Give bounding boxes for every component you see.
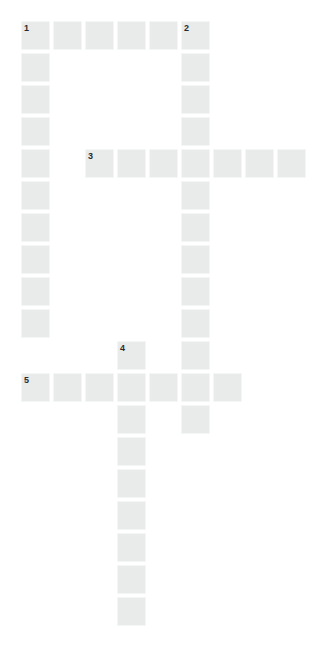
crossword-cell[interactable]	[21, 373, 50, 402]
crossword-cell[interactable]	[117, 149, 146, 178]
crossword-cell[interactable]	[181, 21, 210, 50]
crossword-cell[interactable]	[245, 149, 274, 178]
crossword-cell[interactable]	[117, 565, 146, 594]
crossword-cell[interactable]	[181, 117, 210, 146]
crossword-cell[interactable]	[21, 181, 50, 210]
crossword-cell[interactable]	[21, 213, 50, 242]
crossword-cell[interactable]	[117, 501, 146, 530]
crossword-cell[interactable]	[181, 341, 210, 370]
crossword-cell[interactable]	[117, 437, 146, 466]
crossword-cell[interactable]	[53, 21, 82, 50]
crossword-cell[interactable]	[149, 373, 178, 402]
crossword-cell[interactable]	[181, 53, 210, 82]
crossword-cell[interactable]	[21, 309, 50, 338]
crossword-cell[interactable]	[117, 469, 146, 498]
crossword-cell[interactable]	[53, 373, 82, 402]
crossword-cell[interactable]	[85, 21, 114, 50]
crossword-cell[interactable]	[21, 85, 50, 114]
crossword-cell[interactable]	[117, 373, 146, 402]
crossword-puzzle: 12345	[0, 0, 323, 645]
crossword-cell[interactable]	[117, 405, 146, 434]
crossword-cell[interactable]	[117, 21, 146, 50]
crossword-cell[interactable]	[21, 53, 50, 82]
crossword-cell[interactable]	[21, 277, 50, 306]
crossword-cell[interactable]	[21, 245, 50, 274]
crossword-cell[interactable]	[149, 149, 178, 178]
crossword-cell[interactable]	[117, 597, 146, 626]
crossword-cell[interactable]	[277, 149, 306, 178]
crossword-grid[interactable]: 12345	[0, 0, 323, 645]
crossword-cell[interactable]	[117, 533, 146, 562]
crossword-cell[interactable]	[21, 21, 50, 50]
crossword-cell[interactable]	[117, 341, 146, 370]
crossword-cell[interactable]	[181, 149, 210, 178]
crossword-cell[interactable]	[181, 245, 210, 274]
crossword-cell[interactable]	[21, 117, 50, 146]
crossword-cell[interactable]	[213, 373, 242, 402]
crossword-cell[interactable]	[181, 405, 210, 434]
crossword-cell[interactable]	[213, 149, 242, 178]
crossword-cell[interactable]	[181, 213, 210, 242]
crossword-cell[interactable]	[181, 373, 210, 402]
crossword-cell[interactable]	[181, 309, 210, 338]
crossword-cell[interactable]	[181, 277, 210, 306]
crossword-cell[interactable]	[181, 181, 210, 210]
crossword-cell[interactable]	[149, 21, 178, 50]
crossword-cell[interactable]	[85, 149, 114, 178]
crossword-cell[interactable]	[21, 149, 50, 178]
crossword-cell[interactable]	[85, 373, 114, 402]
crossword-cell[interactable]	[181, 85, 210, 114]
